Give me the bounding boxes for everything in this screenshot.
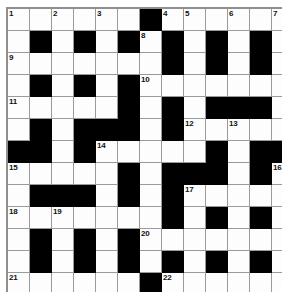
letter-cell[interactable] [7,185,30,207]
letter-cell[interactable] [206,119,228,141]
letter-cell[interactable] [162,75,184,97]
letter-cell[interactable] [96,31,118,53]
letter-cell[interactable] [52,251,74,273]
numbered-cell[interactable]: 20 [140,229,162,251]
numbered-cell[interactable]: 18 [7,207,30,229]
letter-cell[interactable] [228,229,250,251]
letter-cell[interactable] [184,207,206,229]
letter-cell[interactable] [228,53,250,75]
letter-cell[interactable] [140,119,162,141]
letter-cell[interactable] [118,53,140,75]
numbered-cell[interactable]: 10 [140,75,162,97]
letter-cell[interactable] [140,53,162,75]
letter-cell[interactable] [52,31,74,53]
letter-cell[interactable] [52,229,74,251]
numbered-cell[interactable]: 9 [7,53,30,75]
letter-cell[interactable] [184,97,206,119]
letter-cell[interactable] [30,53,52,75]
letter-cell[interactable] [184,75,206,97]
letter-cell[interactable] [74,97,96,119]
letter-cell[interactable] [272,31,283,53]
numbered-cell[interactable]: 21 [7,273,30,292]
letter-cell[interactable] [96,185,118,207]
numbered-cell[interactable]: 5 [184,8,206,31]
letter-cell[interactable] [184,53,206,75]
numbered-cell[interactable]: 2 [52,8,74,31]
letter-cell[interactable] [272,119,283,141]
letter-cell[interactable] [272,185,283,207]
letter-cell[interactable] [30,273,52,292]
numbered-cell[interactable]: 12 [184,119,206,141]
letter-cell[interactable] [206,273,228,292]
letter-cell[interactable] [7,251,30,273]
numbered-cell[interactable]: 15 [7,163,30,185]
letter-cell[interactable] [96,273,118,292]
numbered-cell[interactable]: 22 [162,273,184,292]
numbered-cell[interactable]: 6 [228,8,250,31]
letter-cell[interactable] [96,53,118,75]
letter-cell[interactable] [52,53,74,75]
letter-cell[interactable] [96,97,118,119]
letter-cell[interactable] [52,141,74,163]
letter-cell[interactable] [228,251,250,273]
letter-cell[interactable] [272,207,283,229]
numbered-cell[interactable]: 4 [162,8,184,31]
letter-cell[interactable] [184,141,206,163]
letter-cell[interactable] [74,8,96,31]
letter-cell[interactable] [140,251,162,273]
letter-cell[interactable] [52,75,74,97]
letter-cell[interactable] [228,75,250,97]
letter-cell[interactable] [162,229,184,251]
letter-cell[interactable] [96,163,118,185]
letter-cell[interactable] [250,185,272,207]
letter-cell[interactable] [30,8,52,31]
letter-cell[interactable] [7,119,30,141]
letter-cell[interactable] [250,119,272,141]
numbered-cell[interactable]: 11 [7,97,30,119]
letter-cell[interactable] [30,97,52,119]
letter-cell[interactable] [74,273,96,292]
letter-cell[interactable] [228,207,250,229]
letter-cell[interactable] [184,229,206,251]
letter-cell[interactable] [74,207,96,229]
letter-cell[interactable] [7,31,30,53]
letter-cell[interactable] [74,53,96,75]
letter-cell[interactable] [272,229,283,251]
numbered-cell[interactable]: 8 [140,31,162,53]
letter-cell[interactable] [30,207,52,229]
letter-cell[interactable] [272,273,283,292]
letter-cell[interactable] [140,207,162,229]
letter-cell[interactable] [96,229,118,251]
letter-cell[interactable] [118,207,140,229]
letter-cell[interactable] [118,273,140,292]
letter-cell[interactable] [96,251,118,273]
numbered-cell[interactable]: 17 [184,185,206,207]
letter-cell[interactable] [7,229,30,251]
letter-cell[interactable] [140,97,162,119]
letter-cell[interactable] [96,75,118,97]
letter-cell[interactable] [96,207,118,229]
numbered-cell[interactable]: 3 [96,8,118,31]
letter-cell[interactable] [206,185,228,207]
letter-cell[interactable] [7,75,30,97]
letter-cell[interactable] [228,273,250,292]
letter-cell[interactable] [206,75,228,97]
crossword-grid[interactable]: 12345678910111213141516171819202122 [6,7,282,292]
letter-cell[interactable] [52,97,74,119]
numbered-cell[interactable]: 19 [52,207,74,229]
letter-cell[interactable] [250,8,272,31]
letter-cell[interactable] [184,273,206,292]
letter-cell[interactable] [272,97,283,119]
letter-cell[interactable] [250,75,272,97]
letter-cell[interactable] [272,53,283,75]
letter-cell[interactable] [272,251,283,273]
letter-cell[interactable] [74,163,96,185]
numbered-cell[interactable]: 13 [228,119,250,141]
letter-cell[interactable] [184,31,206,53]
letter-cell[interactable] [140,141,162,163]
letter-cell[interactable] [52,273,74,292]
numbered-cell[interactable]: 14 [96,141,118,163]
letter-cell[interactable] [118,8,140,31]
letter-cell[interactable] [228,141,250,163]
letter-cell[interactable] [228,31,250,53]
